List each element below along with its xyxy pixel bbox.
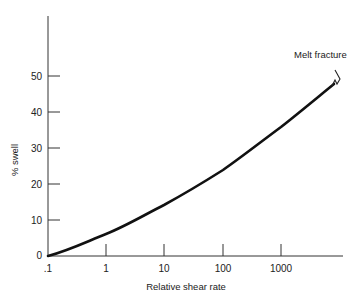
svg-text:100: 100	[215, 263, 232, 274]
chart: 50 40 30 20 10 0 .1 1 10 100 1000 Relati…	[0, 0, 361, 295]
swell-curve	[48, 84, 334, 256]
svg-text:.1: .1	[44, 263, 53, 274]
melt-fracture-label: Melt fracture	[294, 49, 347, 60]
x-ticks	[106, 244, 281, 256]
svg-text:20: 20	[31, 179, 43, 190]
x-tick-labels: .1 1 10 100 1000	[44, 263, 293, 274]
svg-text:1000: 1000	[270, 263, 293, 274]
y-axis-title: % swell	[9, 144, 20, 176]
svg-text:0: 0	[36, 250, 42, 261]
svg-text:50: 50	[31, 71, 43, 82]
x-axis-title: Relative shear rate	[146, 281, 226, 292]
svg-text:30: 30	[31, 143, 43, 154]
svg-text:10: 10	[158, 263, 170, 274]
y-tick-labels: 50 40 30 20 10 0	[31, 71, 43, 261]
melt-fracture-zigzag	[332, 70, 340, 86]
svg-text:40: 40	[31, 107, 43, 118]
y-ticks	[48, 76, 60, 220]
svg-text:10: 10	[31, 215, 43, 226]
svg-text:1: 1	[103, 263, 109, 274]
